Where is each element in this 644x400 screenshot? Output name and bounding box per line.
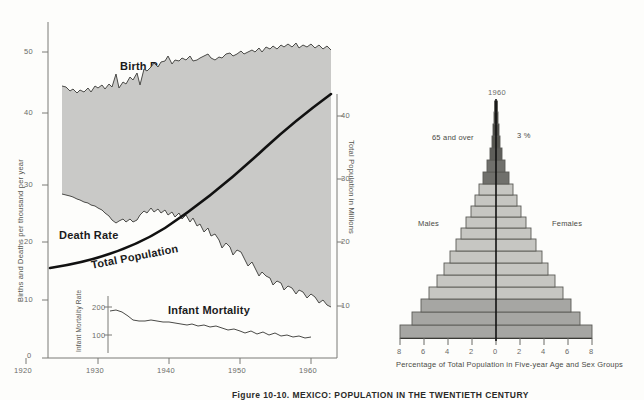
figure-caption: Figure 10-10. MEXICO: POPULATION IN THE … — [232, 390, 529, 400]
figure-root: Births and Deaths per thousand per year … — [0, 0, 644, 400]
left-chart-panel: Births and Deaths per thousand per year … — [0, 0, 380, 400]
population-pyramid-panel: 1960 65 and over 3 % Males Females 15-64… — [380, 0, 644, 400]
pyramid-canvas — [380, 0, 644, 400]
left-chart-canvas — [0, 0, 380, 400]
